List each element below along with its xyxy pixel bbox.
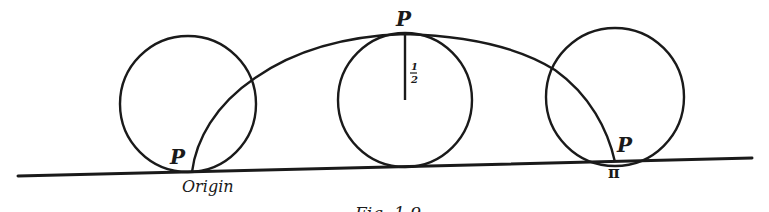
point-p-top-label: P bbox=[395, 7, 412, 31]
rolling-circle-end bbox=[546, 28, 684, 166]
rolling-circle-start bbox=[120, 36, 256, 172]
point-p-right-label: P bbox=[616, 133, 633, 157]
radius-numerator: 1 bbox=[411, 61, 418, 72]
origin-label: Origin bbox=[182, 177, 234, 196]
radius-denominator: 2 bbox=[410, 74, 418, 85]
figure-caption: Fig. 1.9 bbox=[354, 203, 421, 212]
pi-label: π bbox=[608, 163, 620, 182]
point-p-left-label: P bbox=[169, 145, 186, 169]
cycloid-figure: P P P Origin π 1 2 Fig. 1.9 bbox=[0, 0, 769, 212]
